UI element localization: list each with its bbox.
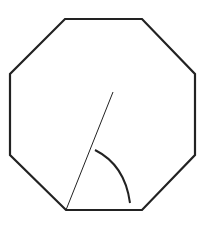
octagon-outline [10,19,195,210]
center-to-vertex-line [66,92,113,210]
octagon-diagram [0,0,201,235]
diagram-canvas [0,0,201,235]
angle-arc [95,150,130,203]
